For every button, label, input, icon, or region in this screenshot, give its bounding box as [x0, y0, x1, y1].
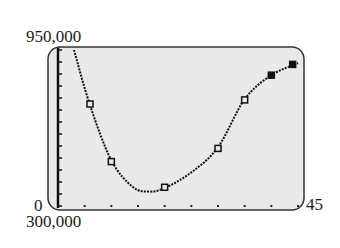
data-point-marker — [268, 72, 274, 78]
data-point-marker — [108, 159, 114, 165]
calculator-graph-screen — [0, 0, 340, 248]
data-point-marker — [87, 101, 93, 107]
data-point-marker — [215, 145, 221, 151]
screen-frame — [48, 47, 304, 210]
data-point-marker — [162, 184, 168, 190]
data-point-marker — [242, 97, 248, 103]
data-point-marker — [290, 61, 296, 67]
